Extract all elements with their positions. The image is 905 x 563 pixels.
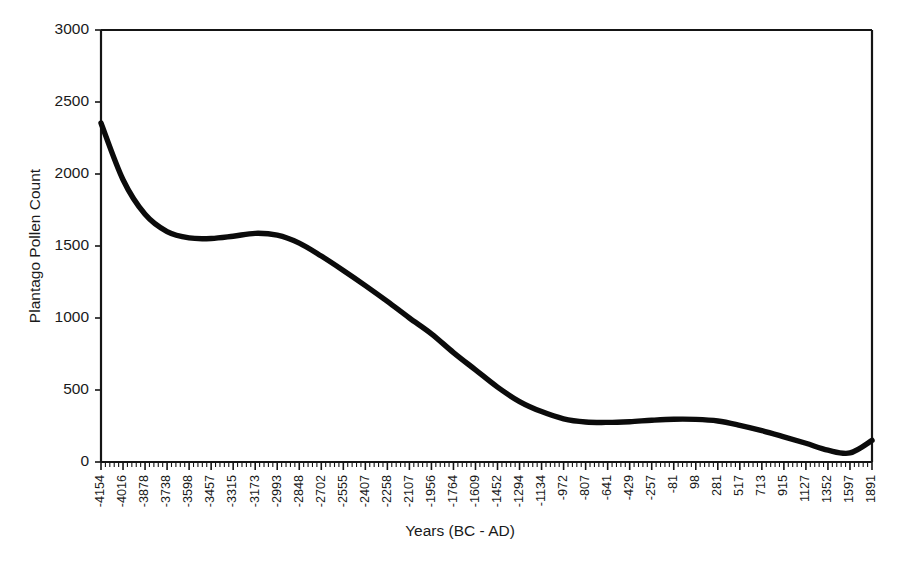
x-tick-label: -4154 <box>93 475 107 507</box>
x-tick-label: -2107 <box>402 475 416 507</box>
x-tick-label: -3457 <box>203 475 217 507</box>
x-tick-label: -1452 <box>490 475 504 507</box>
y-tick-label: 2500 <box>55 92 90 109</box>
y-tick-label: 0 <box>80 452 89 469</box>
y-tick-label: 3000 <box>55 20 90 37</box>
chart-canvas: 050010001500200025003000 -4154-4016-3878… <box>0 0 905 563</box>
x-tick-label: -2407 <box>358 475 372 507</box>
y-tick-label: 2000 <box>55 164 90 181</box>
x-tick-label: -429 <box>622 475 636 500</box>
x-tick-label: -3598 <box>181 475 195 507</box>
x-tick-label: 98 <box>688 475 702 489</box>
x-tick-label: -2555 <box>336 475 350 507</box>
x-tick-label: -1609 <box>468 475 482 507</box>
x-tick-label: -81 <box>666 475 680 493</box>
x-tick-label: 1597 <box>842 475 856 503</box>
x-axis-title: Years (BC - AD) <box>405 522 515 539</box>
x-tick-label: -972 <box>556 475 570 500</box>
y-axis-title: Plantago Pollen Count <box>26 168 43 323</box>
pollen-count-chart: 050010001500200025003000 -4154-4016-3878… <box>0 0 905 563</box>
x-tick-label: -3878 <box>137 475 151 507</box>
x-tick-label: 1352 <box>820 475 834 503</box>
x-tick-label: 1891 <box>864 475 878 503</box>
x-tick-label: -2848 <box>292 475 306 507</box>
x-tick-label: -2258 <box>380 475 394 507</box>
y-tick-label: 500 <box>63 380 89 397</box>
x-tick-label: -3173 <box>248 475 262 507</box>
x-tick-label: -807 <box>578 475 592 500</box>
y-tick-label: 1000 <box>55 308 90 325</box>
x-tick-label: 713 <box>754 475 768 496</box>
x-tick-label: 517 <box>732 475 746 496</box>
x-tick-label: -1764 <box>446 475 460 507</box>
x-tick-label: 915 <box>776 475 790 496</box>
y-tick-label: 1500 <box>55 236 90 253</box>
x-tick-label: 1127 <box>798 475 812 502</box>
x-tick-label: -2702 <box>314 475 328 507</box>
x-tick-label: -2993 <box>270 475 284 507</box>
x-tick-label: -1956 <box>424 475 438 507</box>
x-tick-label: -3315 <box>225 475 239 507</box>
x-tick-label: -641 <box>600 475 614 500</box>
x-tick-label: -1134 <box>534 475 548 506</box>
x-tick-label: -257 <box>644 475 658 500</box>
x-tick-label: 281 <box>710 475 724 496</box>
x-tick-label: -1294 <box>512 475 526 507</box>
x-tick-label: -4016 <box>115 475 129 507</box>
x-tick-label: -3738 <box>159 475 173 507</box>
